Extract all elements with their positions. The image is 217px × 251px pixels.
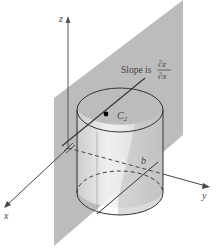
x-axis-label: x [3,210,9,221]
slope-denominator: ∂x [158,71,166,81]
y-axis [163,174,206,186]
z-axis-label: z [58,13,63,24]
slope-numerator: ∂z [158,59,166,69]
plane-intercept-label: b [141,155,146,166]
y-axis-arrowhead [202,183,210,189]
diagram-canvas: z y x C2 b Slope is ∂z ∂x [0,0,217,251]
y-axis-label: y [201,190,207,201]
z-axis-arrowhead [66,16,71,23]
slope-label: Slope is [121,65,152,75]
tangent-point [104,112,109,117]
